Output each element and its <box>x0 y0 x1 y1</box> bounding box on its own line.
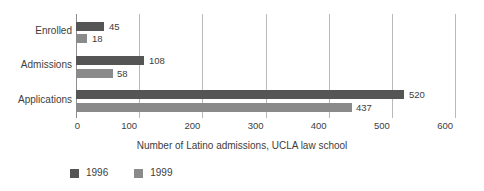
latino-admissions-bar-chart: Enrolled Admissions Applications 45 18 1… <box>0 0 484 191</box>
bar-admissions-1996 <box>76 56 144 65</box>
category-axis-labels: Enrolled Admissions Applications <box>0 14 72 118</box>
bar-value-applications-1996: 520 <box>409 90 425 99</box>
bar-applications-1999 <box>76 103 352 112</box>
legend-swatch-icon-1996 <box>70 169 79 178</box>
gridline-500 <box>392 14 393 118</box>
xtick-400: 400 <box>311 120 329 131</box>
xtick-600: 600 <box>437 120 455 131</box>
bar-value-admissions-1999: 58 <box>117 69 128 78</box>
bar-value-enrolled-1999: 18 <box>92 34 103 43</box>
bar-enrolled-1999 <box>76 34 87 43</box>
category-label-enrolled: Enrolled <box>0 26 72 36</box>
xtick-0: 0 <box>75 120 82 131</box>
legend-item-1996: 1996 <box>70 168 108 178</box>
bar-enrolled-1996 <box>76 22 104 31</box>
gridline-600 <box>455 14 456 118</box>
legend-label-1999: 1999 <box>150 168 172 178</box>
bar-admissions-1999 <box>76 69 113 78</box>
bar-value-admissions-1996: 108 <box>149 56 165 65</box>
legend-swatch-icon-1999 <box>134 169 143 178</box>
xtick-200: 200 <box>184 120 202 131</box>
x-axis-title: Number of Latino admissions, UCLA law sc… <box>0 140 484 151</box>
category-label-admissions: Admissions <box>0 60 72 70</box>
category-label-applications: Applications <box>0 95 72 105</box>
xtick-300: 300 <box>248 120 266 131</box>
bar-applications-1996 <box>76 90 404 99</box>
chart-legend: 1996 1999 <box>70 166 199 180</box>
plot-area: 45 18 108 58 520 437 <box>76 14 455 118</box>
bar-value-applications-1999: 437 <box>356 103 372 112</box>
xtick-500: 500 <box>374 120 392 131</box>
x-axis-tick-labels: 0 100 200 300 400 500 600 <box>76 120 455 134</box>
bar-value-enrolled-1996: 45 <box>109 22 120 31</box>
xtick-100: 100 <box>121 120 139 131</box>
legend-item-1999: 1999 <box>134 168 172 178</box>
legend-label-1996: 1996 <box>86 168 108 178</box>
